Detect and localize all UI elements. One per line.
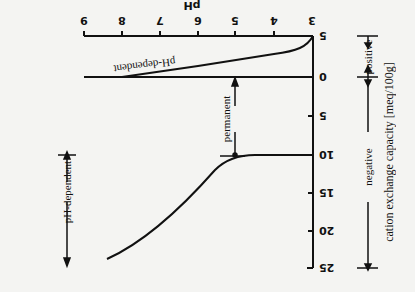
y-axis-label: cation exchange capacity [meq/100g] <box>382 62 396 242</box>
svg-text:6: 6 <box>194 14 202 27</box>
x-tick-labels: 3 4 5 6 7 8 9 <box>80 14 316 27</box>
permanent-label: permanent <box>220 96 232 142</box>
positive-label: positive <box>362 39 374 74</box>
svg-text:8: 8 <box>118 14 126 27</box>
negative-label: negative <box>362 148 374 185</box>
cec-chart: 3 4 5 6 7 8 9 pH 5 0 5 10 15 20 25 pH-de… <box>0 0 415 292</box>
svg-text:0: 0 <box>319 70 327 83</box>
y-tick-labels: 5 0 5 10 15 20 25 <box>319 29 335 274</box>
ph-dependent-bottom-label: pH-dependent <box>61 161 73 223</box>
svg-text:10: 10 <box>319 148 335 161</box>
svg-text:5: 5 <box>231 14 239 27</box>
svg-text:5: 5 <box>319 29 327 42</box>
svg-text:5: 5 <box>319 109 327 122</box>
negative-charge-curve <box>107 155 313 259</box>
svg-text:9: 9 <box>80 14 88 27</box>
x-axis-label: pH <box>183 0 200 12</box>
svg-text:20: 20 <box>319 224 335 237</box>
figure-container: 3 4 5 6 7 8 9 pH 5 0 5 10 15 20 25 pH-de… <box>0 0 415 292</box>
svg-text:25: 25 <box>319 261 334 274</box>
rotated-figure: 3 4 5 6 7 8 9 pH 5 0 5 10 15 20 25 pH-de… <box>0 0 415 292</box>
ph-dependent-top-label: pH-dependent <box>113 56 176 76</box>
svg-text:3: 3 <box>308 14 316 27</box>
svg-text:15: 15 <box>319 186 334 199</box>
svg-text:7: 7 <box>156 14 164 27</box>
svg-text:4: 4 <box>270 14 278 27</box>
